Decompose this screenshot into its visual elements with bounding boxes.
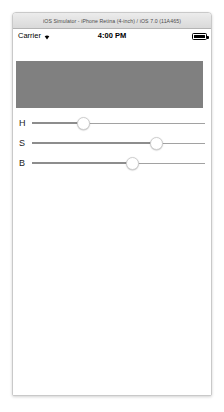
wifi-icon: [43, 33, 51, 40]
brightness-slider-track-filled: [32, 162, 132, 164]
simulator-window: iOS Simulator - iPhone Retina (4-inch) /…: [12, 12, 212, 396]
slider-group: H S B: [13, 113, 211, 173]
battery-icon: [192, 33, 207, 40]
hue-slider[interactable]: [32, 113, 205, 133]
hue-slider-thumb[interactable]: [77, 117, 90, 130]
saturation-slider[interactable]: [32, 133, 205, 153]
hue-slider-label: H: [19, 119, 32, 128]
brightness-slider-label: B: [19, 159, 32, 168]
saturation-slider-thumb[interactable]: [150, 137, 163, 150]
empty-content-area: [13, 179, 211, 396]
ios-status-bar: Carrier 4:00 PM: [13, 29, 211, 43]
brightness-slider[interactable]: [32, 153, 205, 173]
brightness-slider-thumb[interactable]: [126, 157, 139, 170]
hue-slider-track-filled: [32, 122, 84, 124]
carrier-label: Carrier: [18, 32, 41, 40]
saturation-slider-row: S: [13, 133, 211, 153]
saturation-slider-label: S: [19, 139, 32, 148]
status-bar-left: Carrier: [18, 32, 51, 40]
hue-slider-row: H: [13, 113, 211, 133]
brightness-slider-row: B: [13, 153, 211, 173]
color-preview-swatch: [16, 61, 203, 108]
saturation-slider-track-filled: [32, 142, 157, 144]
window-title: iOS Simulator - iPhone Retina (4-inch) /…: [43, 17, 181, 23]
device-screen: Carrier 4:00 PM H: [13, 29, 211, 396]
window-title-bar[interactable]: iOS Simulator - iPhone Retina (4-inch) /…: [13, 13, 211, 29]
status-bar-right: [192, 33, 207, 40]
battery-fill: [194, 35, 205, 38]
